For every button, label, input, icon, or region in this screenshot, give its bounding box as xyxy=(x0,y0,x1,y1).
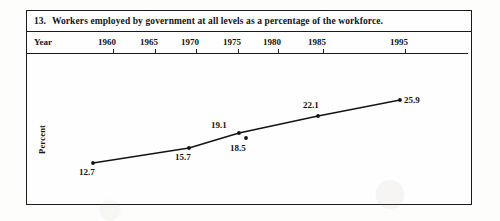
data-point-15.7 xyxy=(187,146,191,150)
x-axis-tick-label-1965: 1965 xyxy=(140,37,158,47)
data-point-label-25.9: 25.9 xyxy=(404,95,420,105)
x-axis-tick-label-1985: 1985 xyxy=(308,37,326,47)
data-point-label-15.7: 15.7 xyxy=(175,152,191,162)
data-point-label-12.7: 12.7 xyxy=(79,167,95,177)
figure-screenshot: 13. Workers employed by government at al… xyxy=(0,0,500,221)
x-axis-row-label: Year xyxy=(34,37,52,47)
x-axis-tick-label-1980: 1980 xyxy=(263,37,281,47)
data-line xyxy=(93,100,400,163)
data-point-19.1 xyxy=(237,131,241,135)
line-chart-svg xyxy=(27,54,473,206)
data-point-22.1 xyxy=(316,114,320,118)
data-point-label-18.5: 18.5 xyxy=(230,143,246,153)
data-point-label-22.1: 22.1 xyxy=(303,100,319,110)
x-axis-tick-label-1970: 1970 xyxy=(181,37,199,47)
figure-title: Workers employed by government at all le… xyxy=(52,16,383,26)
x-axis-tick-label-1995: 1995 xyxy=(390,37,408,47)
plot-area: Percent 12.715.719.118.522.125.9 xyxy=(27,54,471,204)
data-point-18.5 xyxy=(244,136,248,140)
x-axis-tick-label-1975: 1975 xyxy=(223,37,241,47)
x-axis-header: Year 1960196519701975198019851995 xyxy=(27,32,471,54)
figure-frame: 13. Workers employed by government at al… xyxy=(26,10,472,205)
data-point-25.9 xyxy=(398,98,402,102)
x-axis-tick-label-1960: 1960 xyxy=(98,37,116,47)
data-point-label-19.1: 19.1 xyxy=(211,120,227,130)
data-point-12.7 xyxy=(91,161,95,165)
figure-title-band: 13. Workers employed by government at al… xyxy=(27,11,471,32)
figure-number: 13. xyxy=(34,16,46,26)
